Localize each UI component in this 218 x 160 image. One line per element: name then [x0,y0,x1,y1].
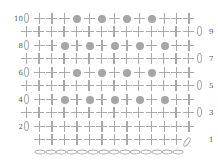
single-crochet-icon [159,67,171,79]
single-crochet-icon [159,13,171,25]
single-crochet-icon [34,121,46,133]
single-crochet-icon [59,134,71,146]
single-crochet-icon [146,53,158,65]
single-crochet-icon [183,53,195,65]
single-crochet-icon [133,26,145,38]
bobble-stitch-icon [146,67,158,79]
single-crochet-icon [171,94,183,106]
turning-chain-icon [21,13,33,25]
single-crochet-icon [33,80,45,92]
bobble-stitch-icon [109,94,121,106]
single-crochet-icon [58,53,70,65]
single-crochet-icon [71,26,83,38]
turning-chain-icon [21,94,33,106]
bobble-stitch-icon [134,94,146,106]
turning-chain-icon [21,40,33,52]
single-crochet-icon [71,134,83,146]
bobble-stitch-icon [146,13,158,25]
single-crochet-icon [146,107,158,119]
single-crochet-icon [46,67,58,79]
bobble-stitch-icon [71,67,83,79]
single-crochet-icon [71,80,83,92]
bobble-stitch-icon [109,40,121,52]
single-crochet-icon [158,107,170,119]
single-crochet-icon [171,67,183,79]
single-crochet-icon [170,80,182,92]
turning-chain-icon [21,121,33,133]
single-crochet-icon [121,134,133,146]
single-crochet-icon [183,40,195,52]
single-crochet-icon [146,121,158,133]
single-crochet-icon [71,107,83,119]
single-crochet-icon [183,94,195,106]
single-crochet-icon [121,94,133,106]
single-crochet-icon [84,134,96,146]
single-crochet-icon [34,67,46,79]
bobble-stitch-icon [159,94,171,106]
single-crochet-icon [71,40,83,52]
single-crochet-icon [146,40,158,52]
single-crochet-icon [34,94,46,106]
single-crochet-icon [96,53,108,65]
single-crochet-icon [96,40,108,52]
single-crochet-icon [109,121,121,133]
single-crochet-icon [171,40,183,52]
single-crochet-icon [58,80,70,92]
single-crochet-icon [146,80,158,92]
foundation-chain-icon [151,150,162,155]
single-crochet-icon [21,53,33,65]
single-crochet-icon [159,121,171,133]
single-crochet-icon [134,134,146,146]
single-crochet-icon [121,107,133,119]
bobble-stitch-icon [159,40,171,52]
turning-chain-icon [21,67,33,79]
single-crochet-icon [21,26,33,38]
single-crochet-icon [158,26,170,38]
single-crochet-icon [71,121,83,133]
single-crochet-icon [96,26,108,38]
single-crochet-icon [183,67,195,79]
single-crochet-icon [121,80,133,92]
single-crochet-icon [170,53,182,65]
single-crochet-icon [34,40,46,52]
single-crochet-icon [34,134,46,146]
single-crochet-icon [109,134,121,146]
single-crochet-icon [59,67,71,79]
single-crochet-icon [46,80,58,92]
single-crochet-icon [171,121,183,133]
single-crochet-icon [183,13,195,25]
single-crochet-icon [109,67,121,79]
single-crochet-icon [46,40,58,52]
bobble-stitch-icon [96,67,108,79]
foundation-chain-icon [66,150,77,155]
single-crochet-icon [121,26,133,38]
foundation-chain-icon [130,150,141,155]
single-crochet-icon [33,26,45,38]
single-crochet-icon [108,107,120,119]
bobble-stitch-icon [59,40,71,52]
single-crochet-icon [46,107,58,119]
single-crochet-icon [134,67,146,79]
single-crochet-icon [146,134,158,146]
foundation-chain-icon [98,150,109,155]
single-crochet-icon [108,53,120,65]
single-crochet-icon [133,53,145,65]
single-crochet-icon [59,13,71,25]
single-crochet-icon [183,80,195,92]
foundation-chain-icon [172,150,183,155]
single-crochet-icon [96,134,108,146]
single-crochet-icon [33,107,45,119]
single-crochet-icon [170,107,182,119]
foundation-chain-icon [45,150,56,155]
single-crochet-icon [58,26,70,38]
rising-chain-icon [182,136,192,148]
single-crochet-icon [108,80,120,92]
crochet-chart: 10987654321 [0,0,218,160]
row-number-label: 9 [209,28,213,36]
row-number-label: 5 [209,82,213,90]
single-crochet-icon [21,107,33,119]
single-crochet-icon [83,80,95,92]
single-crochet-icon [134,121,146,133]
foundation-chain-icon [35,150,46,155]
single-crochet-icon [71,53,83,65]
